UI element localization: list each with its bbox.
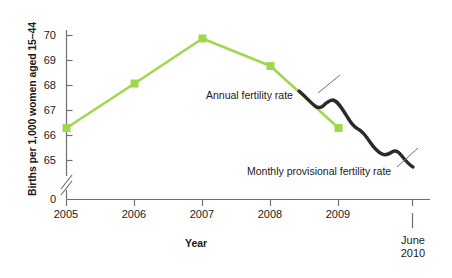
x-tick-label-2007: 2007 — [172, 208, 232, 220]
annual-fertility-line — [67, 39, 339, 129]
x-tick-label-2010: 2010 — [383, 247, 443, 260]
y-tick-label-68: 68 — [30, 80, 56, 91]
data-point-2007 — [199, 35, 207, 43]
monthly-provisional-line — [299, 91, 413, 167]
x-axis-title: Year — [185, 237, 207, 249]
x-tick-label-2008: 2008 — [240, 208, 300, 220]
data-point-2009 — [335, 124, 343, 132]
x-tick-label-2009: 2009 — [308, 208, 368, 220]
y-tick-label-0: 0 — [30, 194, 56, 205]
annual-annotation-leader — [318, 75, 340, 93]
annual-fertility-markers — [63, 35, 343, 133]
y-tick-marks — [67, 36, 73, 161]
annual-fertility-rate-label: Annual fertility rate — [206, 89, 293, 101]
data-point-2008 — [267, 62, 275, 70]
x-tick-label-2006: 2006 — [104, 208, 164, 220]
x-tick-label-2005: 2005 — [36, 208, 96, 220]
monthly-provisional-fertility-rate-label: Monthly provisional fertility rate — [247, 165, 391, 177]
y-tick-label-67: 67 — [30, 105, 56, 116]
fertility-rate-chart: Births per 1,000 women aged 15–44 Year 7… — [0, 0, 452, 278]
y-tick-label-66: 66 — [30, 130, 56, 141]
data-point-2006 — [131, 80, 139, 88]
x-tick-marks — [67, 200, 413, 207]
y-tick-label-69: 69 — [30, 55, 56, 66]
y-tick-label-65: 65 — [30, 155, 56, 166]
data-point-2005 — [63, 124, 71, 132]
x-tick-label-june: June — [383, 234, 443, 247]
y-tick-label-70: 70 — [30, 30, 56, 41]
